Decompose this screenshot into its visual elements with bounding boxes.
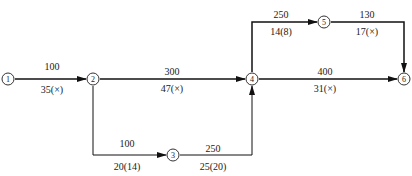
edge-3-4-bottom-label: 25(20) — [200, 161, 227, 172]
edge-5-6-top-label: 130 — [360, 9, 375, 20]
node-5: 5 — [318, 16, 331, 29]
node-1: 1 — [2, 73, 15, 86]
edge-1-2-top-label: 100 — [45, 61, 60, 72]
edge-4-5-top-label: 250 — [274, 9, 289, 20]
edge-2-4-top-label: 300 — [165, 66, 180, 77]
node-4: 4 — [246, 73, 259, 86]
edge-5-6-bottom-label: 17(×) — [356, 26, 378, 37]
edge-4-6-top-label: 400 — [318, 66, 333, 77]
edge-2-3-bottom-label: 20(14) — [114, 161, 141, 172]
node-3: 3 — [167, 149, 180, 162]
edge-3-4-top-label: 250 — [206, 143, 221, 154]
edge-2-3-top-label: 100 — [120, 138, 135, 149]
edge-4-6-bottom-label: 31(×) — [314, 83, 336, 94]
node-2: 2 — [87, 73, 100, 86]
edge-1-2-bottom-label: 35(×) — [41, 84, 63, 95]
edge-4-5-bottom-label: 14(8) — [270, 26, 292, 37]
edge-2-4-bottom-label: 47(×) — [161, 83, 183, 94]
node-6: 6 — [398, 73, 411, 86]
